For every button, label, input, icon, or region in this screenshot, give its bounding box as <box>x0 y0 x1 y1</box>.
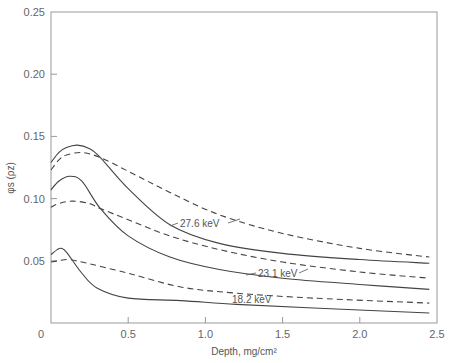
x-axis-label: Depth, mg/cm² <box>211 346 277 357</box>
y-tick-label: 0.15 <box>24 130 45 142</box>
curve-label: 27.6 keV <box>180 218 220 229</box>
chart: 00.51.01.52.02.50.050.100.150.200.25Dept… <box>0 0 452 363</box>
y-tick-label: 0.20 <box>24 68 45 80</box>
labels: 00.51.01.52.02.50.050.100.150.200.25Dept… <box>5 6 445 357</box>
curve-label: 23.1 keV <box>258 268 298 279</box>
x-tick-label: 2.0 <box>352 328 367 340</box>
curve-dashed <box>51 153 429 258</box>
x-tick-label: 2.5 <box>429 328 444 340</box>
y-tick-label: 0.25 <box>24 6 45 18</box>
curve-solid <box>51 176 429 289</box>
x-tick-label: 0 <box>38 328 44 340</box>
y-axis-label: φs (ρz) <box>5 162 16 194</box>
curves <box>51 145 429 313</box>
y-tick-label: 0.05 <box>24 255 45 267</box>
curve-solid <box>51 145 429 263</box>
x-tick-label: 0.5 <box>121 328 136 340</box>
x-tick-label: 1.0 <box>198 328 213 340</box>
curve-label: 18.2 keV <box>232 294 272 305</box>
label-leader <box>170 223 178 226</box>
x-tick-label: 1.5 <box>275 328 290 340</box>
y-tick-label: 0.10 <box>24 193 45 205</box>
curve-dashed <box>51 201 429 278</box>
label-leader <box>299 269 308 273</box>
